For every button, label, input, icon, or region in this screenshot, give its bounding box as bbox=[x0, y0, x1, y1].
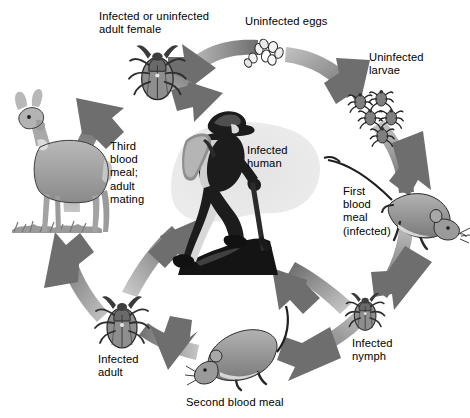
label-second-blood-meal: Second blood meal bbox=[186, 396, 284, 409]
human-highlight-blob bbox=[171, 122, 320, 222]
deer-illustration bbox=[12, 89, 113, 233]
label-uninfected-eggs: Uninfected eggs bbox=[245, 15, 328, 28]
arrow-adult-female-to-eggs bbox=[168, 40, 258, 95]
label-infected-nymph: Infected nymph bbox=[352, 337, 393, 363]
adult-female-tick-illustration bbox=[129, 45, 186, 99]
label-third-blood-meal: Third blood meal; adult mating bbox=[110, 140, 144, 206]
label-infected-adult: Infected adult bbox=[98, 353, 139, 379]
human-hiker-illustration bbox=[173, 111, 278, 275]
infected-adult-tick-illustration bbox=[95, 296, 149, 348]
label-first-blood-meal: First blood meal (infected) bbox=[343, 185, 391, 238]
tick-life-cycle-diagram: Infected or uninfected adult female Unin… bbox=[0, 0, 470, 418]
label-uninfected-larvae: Uninfected larvae bbox=[369, 51, 424, 77]
label-adult-female: Infected or uninfected adult female bbox=[99, 10, 209, 36]
arrow-inner-right-to-human bbox=[272, 262, 352, 314]
arrow-infected-adult-to-deer bbox=[44, 232, 108, 322]
arrow-inner-left-to-human bbox=[122, 220, 197, 297]
arrow-inner-top-to-human bbox=[150, 69, 223, 122]
label-infected-human: Infected human bbox=[247, 144, 288, 170]
arrow-eggs-to-larvae bbox=[285, 47, 370, 108]
larvae-cluster-illustration bbox=[348, 90, 403, 146]
arrow-second-meal-to-infected-adult bbox=[139, 316, 199, 370]
infected-nymph-tick-illustration bbox=[346, 293, 385, 330]
mouse-bottom-illustration bbox=[185, 306, 288, 390]
egg-cluster-illustration bbox=[243, 38, 285, 69]
